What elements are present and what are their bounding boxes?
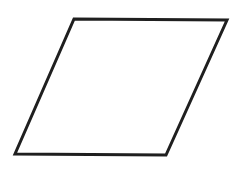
parallelogram-svg <box>0 0 238 178</box>
canvas-background <box>0 0 238 178</box>
figure-canvas <box>0 0 238 178</box>
